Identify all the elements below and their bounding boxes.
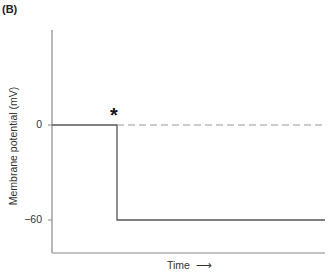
y-tick-zero: 0 <box>12 118 42 130</box>
x-axis-label: Time ⟶ <box>167 259 212 271</box>
chart-plot <box>0 0 330 276</box>
stimulus-star-annotation: * <box>110 105 118 125</box>
y-tick-neg60: −60 <box>12 213 42 225</box>
x-axis-label-text: Time <box>167 259 190 271</box>
series-membrane-potential <box>52 125 325 220</box>
y-axis-label: Membrane potential (mV) <box>7 81 19 211</box>
arrow-right-icon: ⟶ <box>196 259 212 271</box>
